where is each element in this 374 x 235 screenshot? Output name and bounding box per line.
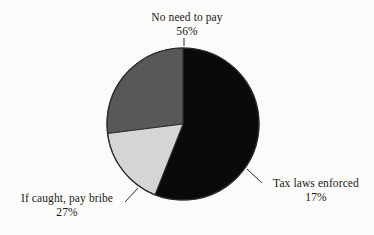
pie-label-no-need-to-pay: No need to pay 56% xyxy=(0,11,374,38)
pie-label-if-caught-pay-bribe: If caught, pay bribe 27% xyxy=(8,192,126,219)
pie-label-no-need-to-pay-text: No need to pay xyxy=(0,11,374,25)
pie-label-tax-laws-enforced-value: 17% xyxy=(262,191,370,205)
leader-line-tax-laws-enforced xyxy=(247,169,262,183)
pie-label-no-need-to-pay-value: 56% xyxy=(0,25,374,39)
pie-label-if-caught-pay-bribe-text: If caught, pay bribe xyxy=(8,192,126,206)
pie-label-if-caught-pay-bribe-value: 27% xyxy=(8,206,126,220)
leader-line-if-caught-pay-bribe xyxy=(125,188,138,202)
pie-slice-if-caught-pay-bribe[interactable] xyxy=(107,48,183,134)
pie-chart-figure: No need to pay 56% Tax laws enforced 17%… xyxy=(0,0,374,235)
pie-label-tax-laws-enforced-text: Tax laws enforced xyxy=(262,177,370,191)
pie-label-tax-laws-enforced: Tax laws enforced 17% xyxy=(262,177,370,204)
